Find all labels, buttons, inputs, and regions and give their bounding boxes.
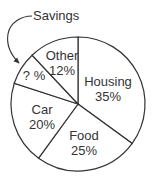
housing-label: Housing bbox=[84, 74, 132, 89]
car-value: 20% bbox=[29, 117, 55, 132]
car-label: Car bbox=[32, 102, 54, 117]
food-value: 25% bbox=[71, 143, 97, 158]
pie-chart: Savings Housing 35% Food 25% Car 20% ? %… bbox=[0, 0, 152, 179]
food-label: Food bbox=[69, 128, 99, 143]
housing-value: 35% bbox=[95, 89, 121, 104]
other-value: 12% bbox=[49, 63, 75, 78]
savings-callout-label: Savings bbox=[33, 8, 80, 23]
other-label: Other bbox=[46, 48, 79, 63]
savings-value: ? % bbox=[23, 68, 46, 83]
savings-callout-arrow-icon bbox=[8, 16, 32, 63]
